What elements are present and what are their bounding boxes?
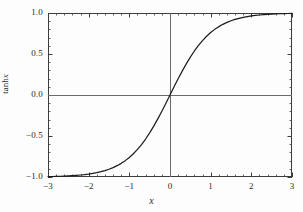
y-tick-label: 0.5	[0, 49, 43, 58]
y-axis-label-variable: x	[0, 74, 10, 78]
x-tick-label: −2	[69, 182, 109, 191]
x-tick-label: 2	[231, 182, 271, 191]
x-tick-label: 1	[191, 182, 231, 191]
y-tick-label: −0.5	[0, 131, 43, 140]
y-axis-label: tanhx	[0, 60, 12, 108]
y-tick-label: −1.0	[0, 172, 43, 181]
x-tick-label: −1	[109, 182, 149, 191]
x-tick-label: −3	[28, 182, 68, 191]
x-axis-label: x	[0, 195, 303, 206]
x-tick-label: 3	[272, 182, 303, 191]
figure-canvas: tanhx x −3−2−10123−1.0−0.50.00.51.0	[0, 0, 303, 212]
x-tick-label: 0	[150, 182, 190, 191]
y-tick-label: 0.0	[0, 90, 43, 99]
y-tick-label: 1.0	[0, 8, 43, 17]
